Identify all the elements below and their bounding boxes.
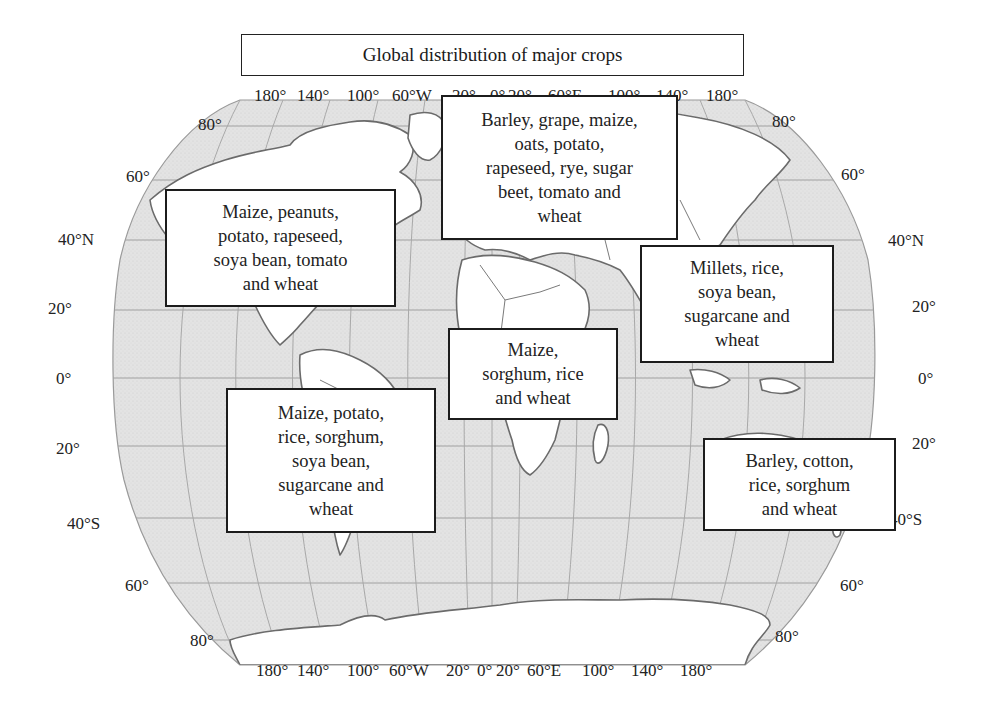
- lat-label-right-4: 0°: [918, 370, 933, 387]
- lon-label-bottom-2: 100°: [347, 662, 379, 679]
- lat-label-left-0: 80°: [198, 116, 222, 133]
- lon-label-top-0: 180°: [254, 87, 286, 104]
- lat-label-right-1: 60°: [841, 166, 865, 183]
- lat-label-right-7: 60°: [840, 577, 864, 594]
- lon-label-bottom-4: 20°: [446, 662, 470, 679]
- lon-label-top-2: 100°: [347, 87, 379, 104]
- lon-label-bottom-0: 180°: [256, 662, 288, 679]
- lat-label-right-0: 80°: [772, 113, 796, 130]
- lat-label-right-8: 80°: [775, 628, 799, 645]
- lon-label-top-1: 140°: [297, 87, 329, 104]
- lat-label-left-4: 0°: [56, 370, 71, 387]
- lat-label-left-1: 60°: [126, 168, 150, 185]
- lat-label-left-7: 60°: [125, 577, 149, 594]
- crop-box-north-america: Maize, peanuts, potato, rapeseed, soya b…: [165, 189, 396, 307]
- lat-label-left-2: 40°N: [58, 231, 94, 248]
- lat-label-left-8: 80°: [190, 632, 214, 649]
- lat-label-right-3: 20°: [912, 298, 936, 315]
- lat-label-left-5: 20°: [56, 440, 80, 457]
- crop-box-oceania: Barley, cotton, rice, sorghum and wheat: [703, 438, 896, 531]
- lon-label-bottom-3: 60°W: [389, 662, 429, 679]
- lon-label-bottom-9: 140°: [631, 662, 663, 679]
- lat-label-left-3: 20°: [48, 300, 72, 317]
- crop-box-south-america: Maize, potato, rice, sorghum, soya bean,…: [226, 388, 436, 533]
- lon-label-bottom-1: 140°: [297, 662, 329, 679]
- lat-label-left-6: 40°S: [67, 515, 100, 532]
- lon-label-bottom-7: 60°E: [527, 662, 561, 679]
- lat-label-right-5: 20°: [912, 435, 936, 452]
- lon-label-top-10: 180°: [706, 87, 738, 104]
- crop-box-asia: Millets, rice, soya bean, sugarcane and …: [640, 245, 834, 363]
- lon-label-top-3: 60°W: [392, 87, 432, 104]
- lon-label-bottom-6: 20°: [496, 662, 520, 679]
- lat-label-right-2: 40°N: [888, 232, 924, 249]
- crop-box-europe: Barley, grape, maize, oats, potato, rape…: [441, 95, 678, 240]
- lon-label-bottom-8: 100°: [582, 662, 614, 679]
- lon-label-bottom-5: 0°: [477, 662, 492, 679]
- lon-label-bottom-10: 180°: [680, 662, 712, 679]
- crop-box-africa: Maize, sorghum, rice and wheat: [448, 328, 618, 420]
